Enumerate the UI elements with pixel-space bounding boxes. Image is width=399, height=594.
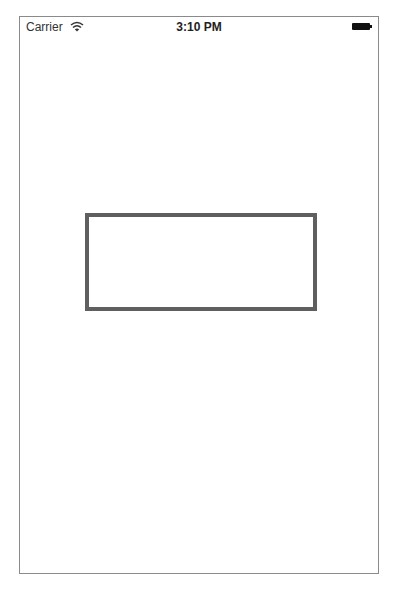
status-time: 3:10 PM xyxy=(20,20,378,34)
battery-icon xyxy=(352,23,370,30)
phone-screen: Carrier 3:10 PM xyxy=(19,16,379,574)
bordered-rectangle-view xyxy=(85,213,317,311)
status-bar: Carrier 3:10 PM xyxy=(20,17,378,37)
